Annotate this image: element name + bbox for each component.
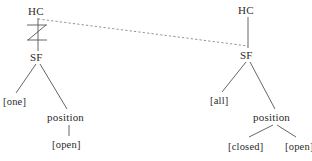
right-tree-root-hc: HC — [238, 5, 254, 16]
right-tree-leaf-open: [open] — [285, 141, 312, 152]
right-tree-leaf-closed: [closed] — [228, 141, 263, 152]
right-tree-sf-node: SF — [240, 50, 253, 61]
tree-diagram-canvas: HC SF [one] position [open] HC SF [all] … — [0, 0, 312, 161]
right-tree: HC SF [all] position [closed] [open] — [0, 0, 312, 161]
right-tree-position-node: position — [253, 112, 290, 123]
right-tree-leaf-all: [all] — [210, 95, 229, 106]
